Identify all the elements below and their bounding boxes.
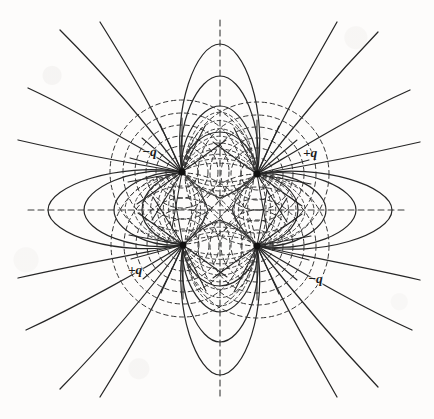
charge-marker-bottom-left: [180, 242, 187, 249]
charge-label-top-right: +q: [303, 145, 317, 161]
quadrupole-figure: −q +q +q −q: [0, 0, 434, 419]
spokes-top-right: [213, 120, 311, 230]
charge-label-bottom-left: +q: [128, 262, 142, 278]
charge-label-top-left: −q: [142, 144, 157, 160]
charge-marker-top-right: [254, 171, 261, 178]
charge-label-bottom-right: −q: [308, 271, 323, 287]
charge-marker-top-left: [179, 169, 186, 176]
field-diagram-canvas: [0, 0, 434, 419]
symmetry-axes: [28, 20, 408, 400]
charge-marker-bottom-right: [254, 243, 261, 250]
